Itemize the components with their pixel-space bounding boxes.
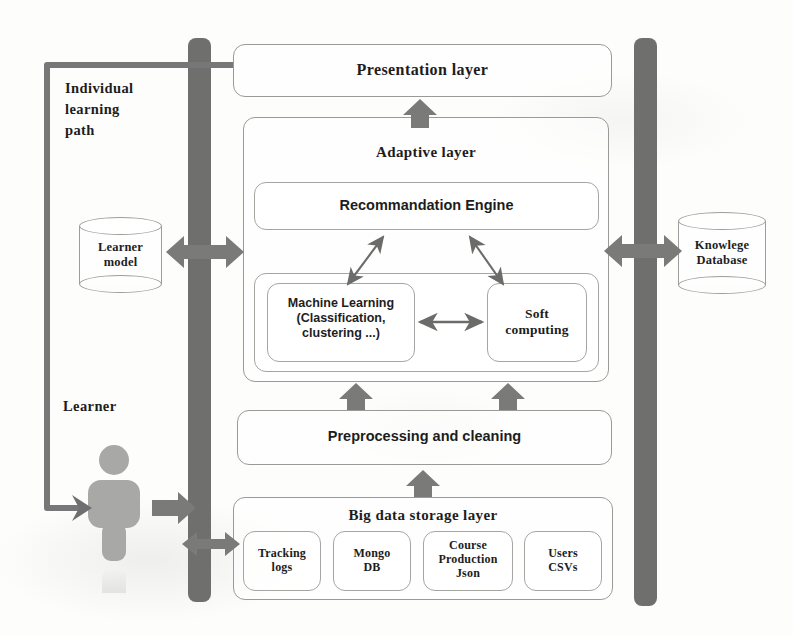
learner-model-database[interactable]: Learner model bbox=[79, 217, 162, 293]
preprocessing-box[interactable]: Preprocessing and cleaning bbox=[237, 410, 612, 465]
recommendation-engine-label: Recommandation Engine bbox=[255, 197, 598, 214]
presentation-layer-label: Presentation layer bbox=[234, 61, 611, 80]
cylinder-bottom-ellipse bbox=[79, 275, 162, 293]
machine-learning-label: Machine Learning (Classification, cluste… bbox=[268, 296, 414, 340]
learner-model-label: Learner model bbox=[79, 240, 162, 270]
cylinder-top-ellipse bbox=[79, 217, 162, 235]
learner-person-icon bbox=[72, 443, 156, 593]
storage-source-users-csvs[interactable]: Users CSVs bbox=[524, 531, 602, 591]
storage-source-mongo-db[interactable]: Mongo DB bbox=[333, 531, 411, 591]
adaptive-layer-label: Adaptive layer bbox=[244, 144, 608, 162]
storage-source-label: Course Production Json bbox=[424, 538, 512, 580]
right-bus-bar bbox=[634, 38, 657, 606]
storage-to-preprocessing-arrow bbox=[406, 470, 440, 497]
preprocessing-to-adaptive-arrow-right bbox=[491, 383, 525, 410]
cylinder-bottom-ellipse bbox=[678, 276, 766, 294]
knowledge-database[interactable]: Knowlege Database bbox=[678, 212, 766, 294]
big-data-storage-label: Big data storage layer bbox=[234, 507, 612, 525]
storage-source-label: Mongo DB bbox=[334, 546, 410, 574]
machine-learning-box[interactable]: Machine Learning (Classification, cluste… bbox=[267, 283, 415, 362]
individual-learning-path-label: Individual learning path bbox=[65, 78, 195, 141]
soft-computing-box[interactable]: Soft computing bbox=[487, 283, 587, 362]
recommendation-engine-box[interactable]: Recommandation Engine bbox=[254, 182, 599, 230]
storage-source-label: Users CSVs bbox=[525, 546, 601, 574]
soft-computing-label: Soft computing bbox=[488, 306, 586, 338]
cylinder-top-ellipse bbox=[678, 212, 766, 230]
preprocessing-label: Preprocessing and cleaning bbox=[238, 428, 611, 445]
diagram-canvas: Presentation layer Adaptive layer Recomm… bbox=[0, 0, 793, 636]
storage-source-label: Tracking logs bbox=[244, 546, 320, 574]
storage-source-course-production-json[interactable]: Course Production Json bbox=[423, 531, 513, 591]
knowledge-database-label: Knowlege Database bbox=[678, 238, 766, 268]
presentation-layer-box[interactable]: Presentation layer bbox=[233, 44, 612, 97]
preprocessing-to-adaptive-arrow-left bbox=[339, 383, 373, 410]
learner-label: Learner bbox=[63, 398, 183, 415]
storage-source-tracking-logs[interactable]: Tracking logs bbox=[243, 531, 321, 591]
